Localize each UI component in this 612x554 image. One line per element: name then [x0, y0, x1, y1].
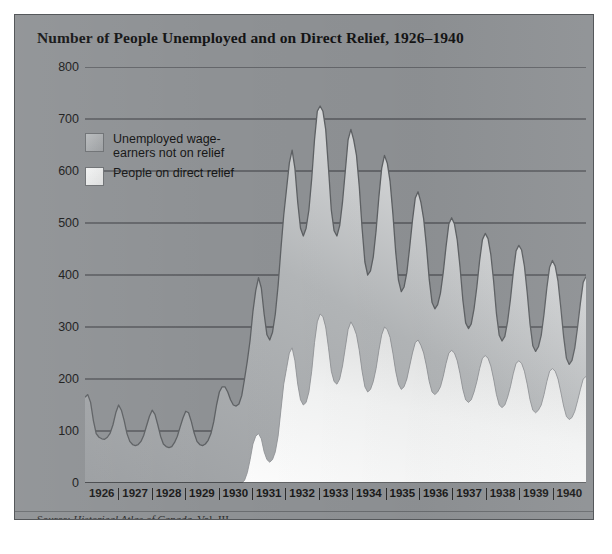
x-axis-tick-labels: 1926192719281929193019311932193319341935… [85, 487, 586, 505]
x-axis-tick: 1930 [223, 487, 249, 499]
source-prefix: Source: [37, 513, 73, 520]
x-axis-separator [252, 488, 253, 500]
source-work: Historical Atlas of Canada [73, 513, 192, 520]
x-axis-tick: 1940 [557, 487, 583, 499]
legend-item: Unemployed wage- earners not on relief [85, 133, 234, 160]
x-axis-tick: 1939 [523, 487, 549, 499]
x-axis-separator [319, 488, 320, 500]
x-axis-separator [152, 488, 153, 500]
x-axis-tick: 1932 [289, 487, 315, 499]
x-axis-separator [285, 488, 286, 500]
x-axis-tick: 1928 [156, 487, 182, 499]
legend-label-line1: Unemployed wage- [113, 132, 221, 146]
x-axis-separator [486, 488, 487, 500]
x-axis-tick: 1927 [122, 487, 148, 499]
source-suffix: , Vol. III [192, 513, 229, 520]
y-axis-tick-labels: 0100200300400500600700800 [41, 67, 79, 483]
x-axis-separator [419, 488, 420, 500]
y-axis-tick: 300 [45, 320, 79, 334]
x-axis-tick: 1938 [490, 487, 516, 499]
chart-panel: Number of People Unemployed and on Direc… [14, 14, 594, 520]
plot-area [85, 67, 586, 483]
x-axis-tick: 1933 [323, 487, 349, 499]
x-axis-separator [185, 488, 186, 500]
y-axis-tick: 600 [45, 164, 79, 178]
y-axis-tick: 500 [45, 216, 79, 230]
y-axis-tick: 100 [45, 424, 79, 438]
x-axis-separator [386, 488, 387, 500]
y-axis-tick: 200 [45, 372, 79, 386]
x-axis-tick: 1931 [256, 487, 282, 499]
source-note: Source: Historical Atlas of Canada, Vol.… [37, 513, 229, 520]
x-axis-tick: 1935 [390, 487, 416, 499]
x-axis-tick: 1929 [189, 487, 215, 499]
y-axis-tick: 400 [45, 268, 79, 282]
source-divider [15, 511, 593, 512]
x-axis-separator [553, 488, 554, 500]
upper-band-swatch [85, 133, 104, 152]
x-axis-separator [352, 488, 353, 500]
y-axis-tick: 700 [45, 112, 79, 126]
x-axis-tick: 1934 [356, 487, 382, 499]
chart-title: Number of People Unemployed and on Direc… [37, 29, 464, 47]
x-axis-tick: 1937 [456, 487, 482, 499]
x-axis-separator [519, 488, 520, 500]
legend-label: Unemployed wage- earners not on relief [113, 133, 224, 160]
y-axis-tick: 800 [45, 60, 79, 74]
lower-band-swatch [85, 167, 104, 186]
y-axis-tick: 0 [45, 476, 79, 490]
x-axis-tick: 1926 [89, 487, 115, 499]
x-axis-separator [118, 488, 119, 500]
x-axis-separator [219, 488, 220, 500]
legend-item: People on direct relief [85, 167, 234, 186]
legend-label-line2: earners not on relief [113, 146, 224, 160]
x-axis-tick: 1936 [423, 487, 449, 499]
x-axis-separator [452, 488, 453, 500]
legend-label: People on direct relief [113, 167, 234, 181]
chart-legend: Unemployed wage- earners not on relief P… [85, 133, 234, 193]
area-chart-svg [85, 67, 586, 483]
